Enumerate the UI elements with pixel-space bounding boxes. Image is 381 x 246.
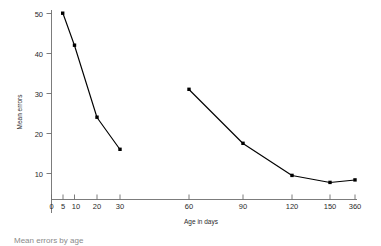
- data-point-age-5: [61, 12, 64, 15]
- data-point-age-10: [73, 44, 76, 47]
- x-axis-title: Age in days: [184, 218, 219, 226]
- x-tick-label-0: 0: [49, 202, 53, 211]
- x-axis-ticks: [52, 195, 356, 200]
- data-point-age-60: [187, 88, 190, 91]
- series-older-ages-markers: [187, 88, 356, 184]
- x-tick-label-60: 60: [185, 202, 193, 211]
- data-point-age-20: [95, 116, 98, 119]
- x-tick-label-120: 120: [286, 202, 299, 211]
- y-tick-label-10: 10: [35, 170, 43, 179]
- y-tick-label-30: 30: [35, 90, 43, 99]
- series-older-ages-line: [189, 90, 355, 183]
- y-tick-label-20: 20: [35, 130, 43, 139]
- y-axis-ticks: [47, 14, 52, 174]
- data-point-age-30: [118, 148, 121, 151]
- data-point-age-360: [353, 178, 356, 181]
- x-tick-label-30: 30: [116, 202, 124, 211]
- x-tick-label-20: 20: [93, 202, 101, 211]
- figure-caption: Mean errors by age: [14, 236, 84, 245]
- series-young-ages-line: [63, 14, 120, 150]
- x-tick-label-90: 90: [239, 202, 247, 211]
- y-tick-label-40: 40: [35, 50, 43, 59]
- data-point-age-90: [241, 142, 244, 145]
- x-tick-label-150: 150: [324, 202, 337, 211]
- x-tick-label-10: 10: [72, 202, 80, 211]
- data-point-age-150: [328, 181, 331, 184]
- y-axis-title: Mean errors: [16, 94, 23, 130]
- chart-figure: 50 40 30 20 10 Mean errors 0 5 10 20 30 …: [0, 0, 381, 246]
- data-point-age-120: [290, 174, 293, 177]
- x-tick-label-5: 5: [61, 202, 65, 211]
- y-tick-label-50: 50: [35, 10, 43, 19]
- x-tick-label-360: 360: [349, 202, 362, 211]
- line-chart: 50 40 30 20 10 Mean errors 0 5 10 20 30 …: [0, 0, 381, 246]
